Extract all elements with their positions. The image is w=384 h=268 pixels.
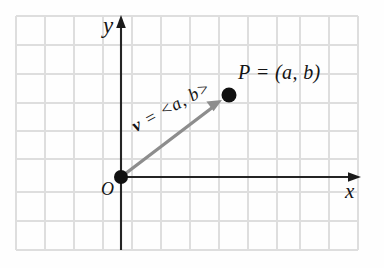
- point-p-dot: [222, 88, 237, 103]
- x-axis: [121, 172, 361, 182]
- x-axis-label: x: [345, 181, 354, 202]
- origin-point-dot: [114, 170, 128, 184]
- diagram-canvas: [0, 0, 384, 268]
- point-p-label: P = (a, b): [238, 62, 321, 82]
- y-axis: [116, 15, 126, 250]
- origin-label: O: [101, 180, 114, 198]
- grid: [16, 16, 358, 250]
- y-axis-label: y: [103, 14, 113, 37]
- vector-diagram-figure: y x O P = (a, b) v = <a, b>: [0, 0, 384, 268]
